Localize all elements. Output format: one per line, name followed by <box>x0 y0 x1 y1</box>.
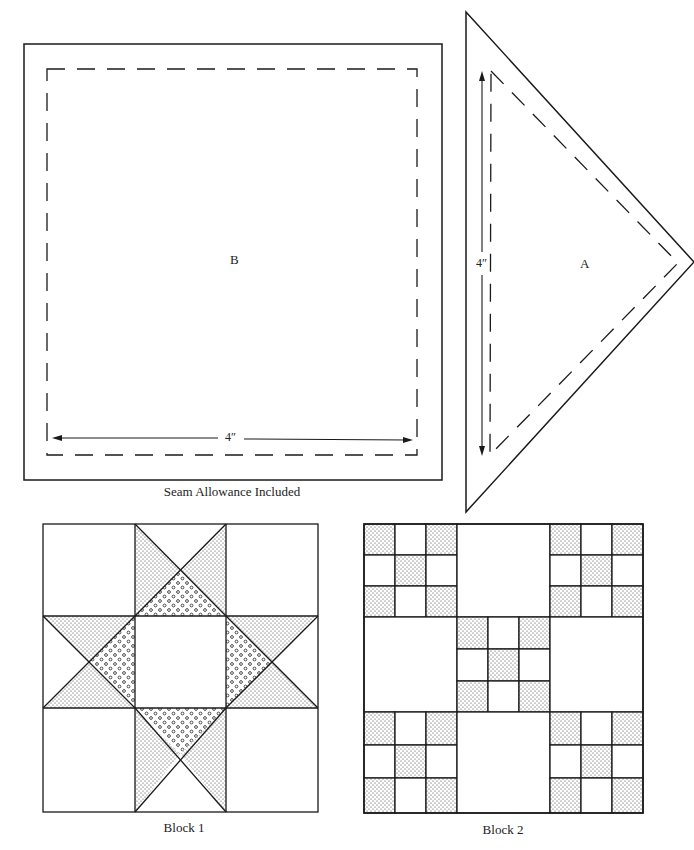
template-a-dimension-label: 4″ <box>476 256 487 271</box>
seam-allowance-caption: Seam Allowance Included <box>164 484 300 500</box>
plain-square-top <box>457 524 550 617</box>
pattern-sheet <box>0 0 694 850</box>
plain-square-bottom <box>457 712 550 813</box>
template-b-dimension-label: 4″ <box>225 430 236 445</box>
template-a-letter: A <box>580 256 589 272</box>
nine-patch-bottom-left <box>364 712 457 813</box>
block-1-caption: Block 1 <box>164 820 205 836</box>
plain-square-left <box>364 617 457 712</box>
nine-patch-center <box>457 617 550 712</box>
nine-patch-top-left <box>364 524 457 617</box>
nine-patch-top-right <box>550 524 643 617</box>
plain-square-right <box>550 617 643 712</box>
template-b-letter: B <box>230 252 239 268</box>
block-2 <box>364 524 643 813</box>
block-1 <box>43 524 318 812</box>
block-2-caption: Block 2 <box>483 822 524 838</box>
nine-patch-bottom-right <box>550 712 643 813</box>
